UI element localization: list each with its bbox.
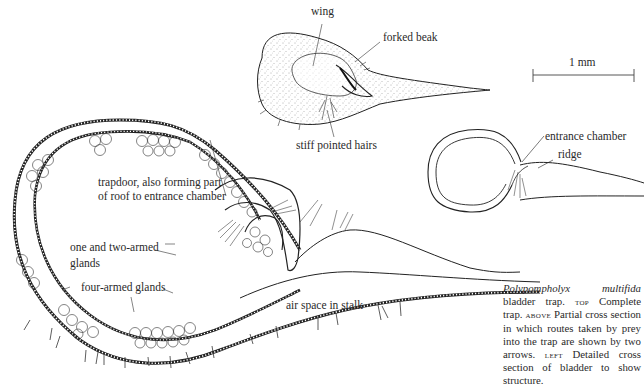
label-one-two-armed-glands-line1: one and two-armed [70,240,159,254]
caption-species: Polypompholyx multifida [503,282,641,294]
label-one-two-armed-glands-line2: glands [70,256,100,270]
label-trapdoor-line1: trapdoor, also forming part [98,175,221,189]
complete-trap-drawing [258,24,491,137]
label-entrance-chamber: entrance chamber [545,129,626,143]
label-trapdoor-line2: of roof to entrance chamber [98,189,226,203]
caption-text-1: bladder trap. [503,295,575,307]
label-air-space-in-stalk: air space in stalk [286,298,363,312]
label-ridge: ridge [558,147,582,161]
scale-bar [533,69,634,82]
scale-bar-label: 1 mm [569,55,596,69]
caption-tag-above: above [525,309,551,320]
caption-tag-top: top [575,296,589,307]
caption-tag-left: left [545,349,563,360]
figure-caption: Polypompholyx multifida bladder trap. to… [503,282,641,388]
label-four-armed-glands: four-armed glands [81,280,165,294]
label-stiff-pointed-hairs: stiff pointed hairs [296,138,377,152]
label-forked-beak: forked beak [383,30,438,44]
label-wing: wing [311,4,334,18]
